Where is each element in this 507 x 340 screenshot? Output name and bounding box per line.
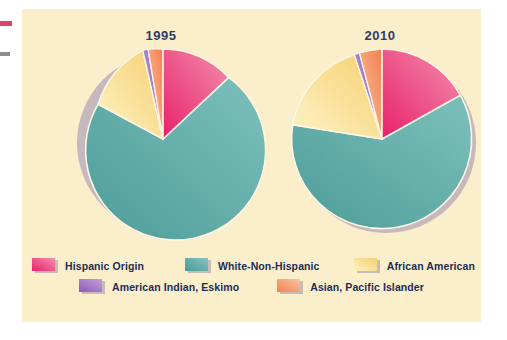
legend-swatch-american-indian-eskimo — [79, 279, 105, 294]
pie-slices-2010 — [292, 49, 472, 229]
legend-item-african-american: African American — [354, 258, 475, 273]
chart-figure: 1995 2010 — [0, 0, 507, 340]
pie-chart-2010 — [289, 46, 475, 232]
legend-label-asian-pacific-islander: Asian, Pacific Islander — [310, 281, 424, 293]
pie-title-2010: 2010 — [320, 28, 440, 43]
legend-item-white-non-hispanic: White-Non-Hispanic — [185, 258, 320, 273]
chart-panel: 1995 2010 — [22, 9, 481, 322]
legend-item-hispanic-origin: Hispanic Origin — [32, 258, 144, 273]
page-edge-mark-gray — [0, 52, 10, 56]
pie-chart-1995 — [70, 46, 256, 232]
legend-row-1: Hispanic Origin White-Non-Hispanic — [22, 255, 481, 276]
chart-legend: Hispanic Origin White-Non-Hispanic — [22, 255, 481, 297]
legend-label-african-american: African American — [387, 260, 475, 272]
legend-swatch-african-american — [354, 258, 380, 273]
pie-title-1995: 1995 — [101, 28, 221, 43]
legend-swatch-asian-pacific-islander — [277, 279, 303, 294]
page-edge-mark-pink — [0, 21, 12, 26]
legend-item-asian-pacific-islander: Asian, Pacific Islander — [277, 279, 424, 294]
legend-swatch-hispanic-origin — [32, 258, 58, 273]
legend-label-hispanic-origin: Hispanic Origin — [65, 260, 144, 272]
pie-svg-2010 — [289, 46, 475, 232]
legend-item-american-indian-eskimo: American Indian, Eskimo — [79, 279, 239, 294]
legend-label-american-indian-eskimo: American Indian, Eskimo — [112, 281, 239, 293]
pie-slices-1995 — [86, 49, 266, 240]
legend-swatch-white-non-hispanic — [185, 258, 211, 273]
legend-row-2: American Indian, Eskimo Asian, Pacific I… — [22, 276, 481, 297]
pie-svg-1995 — [70, 46, 256, 232]
legend-label-white-non-hispanic: White-Non-Hispanic — [218, 260, 320, 272]
